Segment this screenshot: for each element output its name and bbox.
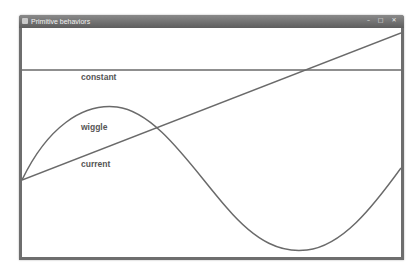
wiggle-curve [22,107,401,251]
behavior-plot [22,28,401,257]
constant-label: constant [81,72,116,82]
close-button[interactable]: ✕ [387,16,401,24]
app-icon [22,18,28,24]
canvas-area: constant wiggle current [22,28,401,257]
current-line [22,33,401,180]
wiggle-label: wiggle [81,122,107,132]
minimize-button[interactable]: – [363,16,374,24]
window-title: Primitive behaviors [31,16,90,27]
maximize-button[interactable]: □ [375,16,386,24]
app-window: Primitive behaviors – □ ✕ constant wiggl… [19,15,404,260]
current-label: current [81,159,110,169]
title-bar[interactable]: Primitive behaviors – □ ✕ [19,15,404,28]
